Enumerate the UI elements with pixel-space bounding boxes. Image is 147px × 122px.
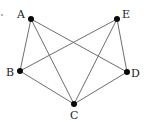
node-b	[17, 68, 23, 74]
edge-a-b	[20, 19, 31, 71]
node-label-b: B	[6, 66, 14, 79]
node-label-a: A	[16, 8, 26, 21]
edges-group	[20, 19, 127, 104]
node-label-c: C	[70, 109, 78, 122]
node-d	[124, 69, 130, 75]
edge-e-d	[117, 19, 127, 72]
node-c	[71, 101, 77, 107]
node-label-e: E	[122, 8, 130, 21]
nodes-group	[17, 16, 130, 107]
node-a	[28, 16, 34, 22]
node-label-d: D	[131, 67, 140, 80]
stray-dot	[1, 14, 3, 16]
graph-diagram: A B C D E	[0, 0, 147, 122]
node-e	[114, 16, 120, 22]
